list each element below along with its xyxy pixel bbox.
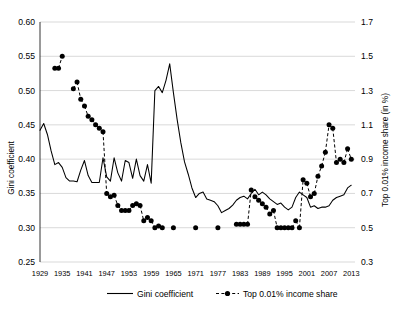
y2-tick-label: 0.7 bbox=[361, 188, 373, 198]
data-point-top-share bbox=[112, 193, 117, 198]
x-tick-label: 1965 bbox=[165, 269, 181, 278]
legend-label-top-share: Top 0.01% income share bbox=[243, 289, 338, 299]
series-line-gini bbox=[40, 64, 351, 213]
x-tick-label: 1941 bbox=[76, 269, 92, 278]
data-point-top-share bbox=[89, 117, 94, 122]
data-point-top-share bbox=[293, 218, 298, 223]
series-segment-top-share bbox=[314, 176, 318, 193]
x-tick-label: 2013 bbox=[343, 269, 359, 278]
x-tick-label: 1983 bbox=[232, 269, 248, 278]
series-segment-top-share bbox=[248, 190, 252, 224]
y-axis-tick-labels: 0.250.300.350.400.450.500.550.60 bbox=[18, 17, 35, 267]
chart-canvas: 0.250.300.350.400.450.500.550.60 0.30.50… bbox=[0, 0, 398, 315]
data-point-top-share bbox=[271, 208, 276, 213]
x-tick-label: 2001 bbox=[299, 269, 315, 278]
data-point-top-share bbox=[149, 218, 154, 223]
y2-tick-label: 0.9 bbox=[361, 154, 373, 164]
y-tick-label: 0.30 bbox=[18, 223, 35, 233]
x-tick-label: 1935 bbox=[54, 269, 70, 278]
y-tick-label: 0.60 bbox=[18, 17, 35, 27]
series-segment-top-share bbox=[333, 128, 337, 162]
y-tick-label: 0.40 bbox=[18, 154, 35, 164]
data-point-top-share bbox=[215, 225, 220, 230]
data-point-top-share bbox=[56, 66, 61, 71]
data-point-top-share bbox=[334, 160, 339, 165]
y-tick-label: 0.55 bbox=[18, 51, 35, 61]
data-point-top-share bbox=[97, 126, 102, 131]
data-point-top-share bbox=[193, 225, 198, 230]
x-tick-label: 1929 bbox=[32, 269, 48, 278]
legend-label-gini: Gini coefficient bbox=[137, 289, 194, 299]
data-point-top-share bbox=[245, 222, 250, 227]
data-point-top-share bbox=[86, 114, 91, 119]
y2-tick-label: 0.3 bbox=[361, 257, 373, 267]
data-point-top-share bbox=[327, 122, 332, 127]
data-point-top-share bbox=[301, 177, 306, 182]
x-axis-tick-labels: 1929193519411947195319591965197119771983… bbox=[32, 269, 360, 278]
data-point-top-share bbox=[330, 126, 335, 131]
y-tick-label: 0.35 bbox=[18, 188, 35, 198]
data-point-top-share bbox=[104, 191, 109, 196]
series-segment-top-share bbox=[273, 211, 277, 228]
x-tick-label: 1947 bbox=[98, 269, 114, 278]
data-point-top-share bbox=[264, 205, 269, 210]
data-point-top-share bbox=[308, 194, 313, 199]
data-point-top-share bbox=[115, 203, 120, 208]
data-point-top-share bbox=[93, 122, 98, 127]
data-point-top-share bbox=[345, 146, 350, 151]
data-point-top-share bbox=[171, 225, 176, 230]
y2-axis-tick-labels: 0.30.50.70.91.11.31.51.7 bbox=[361, 17, 373, 267]
y2-tick-label: 1.1 bbox=[361, 120, 373, 130]
y-tick-label: 0.25 bbox=[18, 257, 35, 267]
axis-titles: Gini coefficient Top 0.01% income share … bbox=[7, 93, 390, 207]
data-point-top-share bbox=[315, 174, 320, 179]
data-point-top-share bbox=[249, 188, 254, 193]
data-point-top-share bbox=[160, 225, 165, 230]
data-point-top-share bbox=[71, 86, 76, 91]
data-point-top-share bbox=[141, 218, 146, 223]
x-tick-label: 1959 bbox=[143, 269, 159, 278]
gridlines bbox=[40, 22, 355, 262]
chart-figure: 0.250.300.350.400.450.500.550.60 0.30.50… bbox=[0, 0, 398, 315]
x-tick-label: 1977 bbox=[210, 269, 226, 278]
data-point-top-share bbox=[312, 191, 317, 196]
data-point-top-share bbox=[101, 129, 106, 134]
data-point-top-share bbox=[138, 203, 143, 208]
data-point-top-share bbox=[126, 208, 131, 213]
data-point-top-share bbox=[256, 198, 261, 203]
series-layer bbox=[40, 54, 354, 230]
y-tick-label: 0.50 bbox=[18, 86, 35, 96]
data-point-top-share bbox=[60, 54, 65, 59]
data-point-top-share bbox=[341, 160, 346, 165]
x-tick-label: 1971 bbox=[187, 269, 203, 278]
data-point-top-share bbox=[338, 157, 343, 162]
y2-axis-title: Top 0.01% income share (in %) bbox=[381, 93, 390, 207]
data-point-top-share bbox=[267, 212, 272, 217]
series-segment-top-share bbox=[299, 180, 303, 228]
data-point-top-share bbox=[319, 164, 324, 169]
data-point-top-share bbox=[323, 150, 328, 155]
series-segment-top-share bbox=[325, 125, 329, 152]
legend-marker-top-share bbox=[225, 291, 230, 296]
data-point-top-share bbox=[75, 80, 80, 85]
data-point-top-share bbox=[297, 225, 302, 230]
data-point-top-share bbox=[78, 97, 83, 102]
x-tick-label: 1995 bbox=[276, 269, 292, 278]
y2-tick-label: 1.7 bbox=[361, 17, 373, 27]
data-point-top-share bbox=[82, 104, 87, 109]
y-tick-label: 0.45 bbox=[18, 120, 35, 130]
chart-legend: Gini coefficient Top 0.01% income share bbox=[107, 289, 338, 299]
y2-tick-label: 1.3 bbox=[361, 86, 373, 96]
y-axis-title: Gini coefficient bbox=[7, 141, 16, 195]
data-point-top-share bbox=[145, 215, 150, 220]
data-point-top-share bbox=[349, 157, 354, 162]
y2-tick-label: 1.5 bbox=[361, 51, 373, 61]
y2-tick-label: 0.5 bbox=[361, 223, 373, 233]
data-point-top-share bbox=[252, 194, 257, 199]
x-tick-label: 2007 bbox=[321, 269, 337, 278]
data-point-top-share bbox=[304, 181, 309, 186]
x-tick-label: 1989 bbox=[254, 269, 270, 278]
data-point-top-share bbox=[260, 201, 265, 206]
x-tick-label: 1953 bbox=[121, 269, 137, 278]
data-point-top-share bbox=[290, 225, 295, 230]
